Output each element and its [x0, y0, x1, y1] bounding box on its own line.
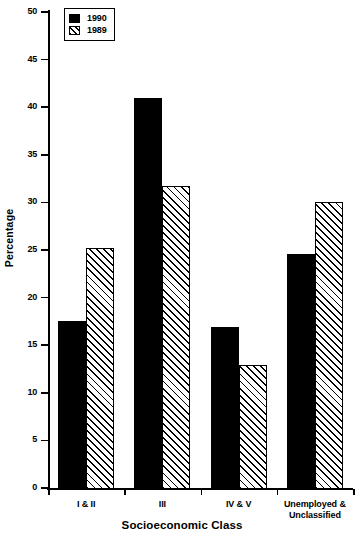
x-category-label-3: Unemployed &Unclassified — [271, 499, 359, 521]
x-category-label-1: III — [118, 499, 206, 510]
bar-1989-3 — [315, 202, 343, 490]
y-tick-label: 10 — [0, 388, 37, 397]
y-axis-title: Percentage — [3, 192, 15, 284]
y-tick-label: 40 — [0, 102, 37, 111]
y-tick-label: 5 — [0, 435, 37, 444]
x-category-label-line1: I & II — [42, 499, 130, 510]
x-tick-mark — [353, 489, 355, 495]
bar-1990-0 — [58, 321, 86, 489]
y-tick-mark — [41, 487, 48, 489]
x-tick-mark — [277, 489, 279, 495]
y-tick-mark — [41, 392, 48, 394]
y-tick-label: 20 — [0, 293, 37, 302]
x-tick-mark — [48, 489, 50, 495]
y-tick-mark — [41, 154, 48, 156]
y-tick-label: 35 — [0, 150, 37, 159]
y-tick-mark — [41, 440, 48, 442]
bar-1989-0 — [86, 248, 114, 489]
y-tick-label: 45 — [0, 55, 37, 64]
x-axis-title: Socioeconomic Class — [0, 519, 364, 531]
x-category-label-line1: IV & V — [195, 499, 283, 510]
x-category-label-2: IV & V — [195, 499, 283, 510]
y-tick-mark — [41, 202, 48, 204]
x-tick-mark — [124, 489, 126, 495]
y-tick-mark — [41, 106, 48, 108]
x-category-label-line1: Unemployed & — [271, 499, 359, 510]
x-tick-mark — [201, 489, 203, 495]
plot-area — [48, 12, 353, 489]
bar-1990-3 — [287, 254, 315, 489]
bar-chart: 1990 1989 05101520253035404550 I & IIIII… — [0, 0, 364, 541]
y-tick-label: 0 — [0, 483, 37, 492]
bar-1989-2 — [239, 365, 267, 489]
y-tick-label: 15 — [0, 340, 37, 349]
bar-1990-2 — [211, 327, 239, 489]
y-tick-mark — [41, 11, 48, 13]
y-tick-mark — [41, 344, 48, 346]
y-tick-label: 50 — [0, 7, 37, 16]
bar-1990-1 — [134, 98, 162, 489]
x-category-label-0: I & II — [42, 499, 130, 510]
y-tick-mark — [41, 59, 48, 61]
bar-1989-1 — [162, 186, 190, 489]
x-category-label-line1: III — [118, 499, 206, 510]
y-tick-mark — [41, 249, 48, 251]
y-tick-mark — [41, 297, 48, 299]
